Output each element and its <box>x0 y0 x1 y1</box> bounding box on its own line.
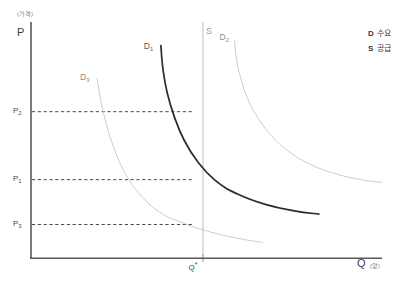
curve-label-sub: 1 <box>150 46 153 52</box>
price-axis-unit: (가격) <box>17 11 33 17</box>
demand-curve-label-3: D3 <box>80 73 89 82</box>
legend-item-d: D수요 <box>368 26 391 41</box>
tick-label-text: Q <box>189 263 195 272</box>
tick-label-sub: 1 <box>18 178 21 184</box>
chart-canvas <box>0 0 403 289</box>
price-tick-label-1: P2 <box>13 107 22 115</box>
legend-key-s: S <box>368 41 377 56</box>
demand-curves <box>97 41 382 243</box>
price-guide-lines <box>32 112 194 225</box>
quantity-axis-label: Q <box>357 258 366 269</box>
curve-label-text: D <box>220 32 226 42</box>
quantity-axis-unit: (양) <box>370 263 380 269</box>
legend-text-d: 수요 <box>377 26 391 41</box>
demand-curve-2 <box>235 41 382 183</box>
demand-curve-label-1: D1 <box>144 42 153 51</box>
demand-curve-1 <box>161 46 319 215</box>
demand-curve-label-2: D2 <box>220 33 229 42</box>
price-axis-label: P <box>17 27 25 38</box>
tick-label-sub: 2 <box>18 110 21 116</box>
price-tick-label-2: P1 <box>13 175 22 183</box>
curve-label-sub: 3 <box>86 77 89 83</box>
legend-key-d: D <box>368 26 377 41</box>
demand-curve-3 <box>97 79 263 243</box>
legend-text-s: 공급 <box>377 41 391 56</box>
quantity-tick-label-1: Q* <box>189 264 198 272</box>
legend-item-s: S공급 <box>368 41 391 56</box>
tick-label-sub: 3 <box>18 223 21 229</box>
curve-label-sub: 2 <box>226 37 229 43</box>
price-tick-label-3: P3 <box>13 220 22 228</box>
supply-curve-label: S <box>206 27 212 36</box>
supply-demand-chart: (가격) P Q (양) P2P1P3 Q* D3D1D2 S D수요S공급 <box>0 0 403 289</box>
chart-legend: D수요S공급 <box>368 26 391 56</box>
